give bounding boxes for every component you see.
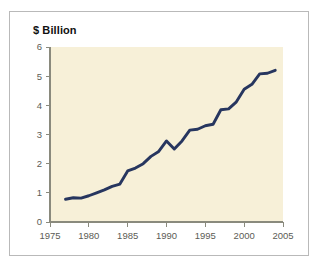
line-chart-plot: 0123456 1975198019851990199520002005: [0, 0, 319, 267]
x-tick-label: 1995: [195, 230, 216, 241]
x-tick-label: 1975: [39, 230, 60, 241]
x-axis-tick-labels: 1975198019851990199520002005: [39, 230, 293, 241]
y-tick-label: 2: [37, 158, 42, 169]
y-axis-tick-labels: 0123456: [37, 41, 42, 227]
x-tick-label: 2000: [234, 230, 255, 241]
x-tick-label: 2005: [272, 230, 293, 241]
y-tick-label: 6: [37, 41, 42, 52]
y-tick-label: 1: [37, 187, 42, 198]
y-tick-label: 5: [37, 71, 42, 82]
x-tick-label: 1985: [117, 230, 138, 241]
x-tick-label: 1980: [78, 230, 99, 241]
chart-figure: $ Billion 0123456 1975198019851990199520…: [0, 0, 319, 267]
x-axis-ticks: [50, 222, 283, 227]
y-tick-label: 3: [37, 129, 42, 140]
x-tick-label: 1990: [156, 230, 177, 241]
y-tick-label: 4: [37, 100, 42, 111]
y-tick-label: 0: [37, 216, 42, 227]
